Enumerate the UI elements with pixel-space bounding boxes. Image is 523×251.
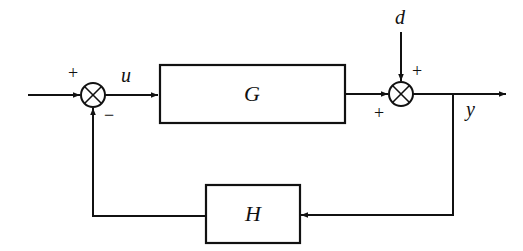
y-signal-label: y: [464, 98, 475, 121]
g-block-label: G: [244, 81, 260, 106]
sum2-plus-sign-left: +: [374, 103, 384, 123]
sum1-plus-sign: +: [68, 63, 78, 83]
block-diagram: + − u G + d + y H: [0, 0, 523, 251]
u-signal-label: u: [121, 64, 131, 86]
h-block-label: H: [244, 201, 262, 226]
summing-junction-2: [389, 82, 413, 106]
d-signal-label: d: [395, 6, 406, 28]
summing-junction-1: [81, 83, 105, 107]
sum1-minus-sign: −: [104, 105, 114, 125]
sum2-plus-sign-top: +: [412, 61, 422, 81]
